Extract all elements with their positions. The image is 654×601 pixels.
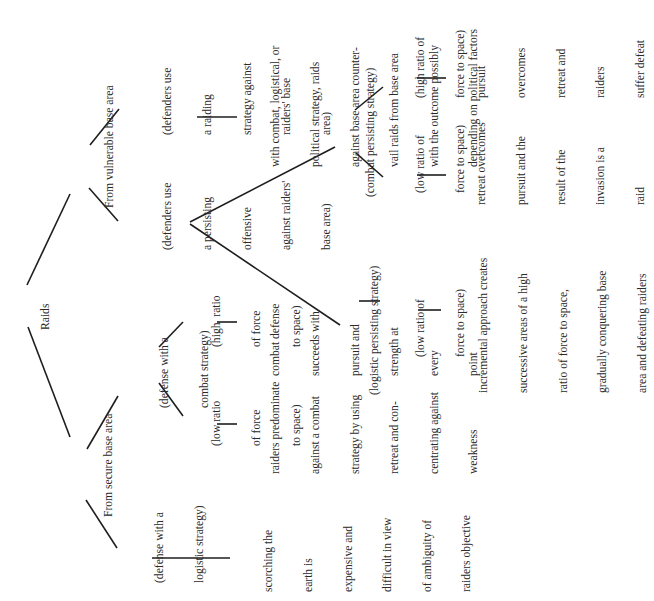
branch-label: From secure base area [102,414,115,517]
node-line: pursuit [475,40,488,98]
node-line: centrating against [428,382,441,474]
node-line: combat defense [269,304,282,376]
node-line: against raiders' [280,181,293,250]
node-line: with combat, logistical, or [269,29,282,167]
node-logistic-strategy: (defense with a logistic strategy) [127,505,233,583]
node-line: successive areas of a high [517,258,530,393]
node-line: suffer defeat [634,40,647,98]
node-line: offensive [241,181,254,250]
node-line: overcomes [515,40,528,98]
node-line: raiders objective [460,515,473,592]
edge-raids-secure [28,327,70,437]
node-cp-high-outcome: pursuit overcomes retreat and raiders su… [449,40,654,98]
node-line: against a combat [309,382,322,474]
node-line: expensive and [342,515,355,592]
node-cs-high-outcome: combat defense succeeds with pursuit and… [243,304,507,376]
root-node-raids: Raids [13,304,79,330]
edge-raids-vulnerable [27,194,70,285]
node-line: political strategy, raids [309,29,322,167]
node-line: gradually conquering base [596,258,609,393]
node-line: (defenders use [161,63,174,135]
node-line: pursuit and the [515,122,528,205]
node-line: of ambiguity of [421,515,434,592]
node-line: raiders predominate [269,382,282,474]
node-line: (high ratio [210,295,223,347]
node-line: earth is [302,515,315,592]
node-line: retreat overcomes [475,122,488,205]
node-line: result of the [555,122,568,205]
node-cp-low-outcome: retreat overcomes pursuit and the result… [449,122,654,205]
node-line: difficult in view [381,515,394,592]
node-line: retreat and con- [388,382,401,474]
node-ls-outcome: scorching the earth is expensive and dif… [236,515,500,592]
branch-label: From vulnerable base area [103,85,116,208]
node-line: (high ratio of [414,30,427,98]
node-line: succeeds with [309,304,322,376]
node-line: every [428,304,441,376]
node-line: strategy by using [349,382,362,474]
node-line: logistic strategy) [193,505,206,583]
node-line: invasion is a [594,122,607,205]
node-line: a persisting [201,181,214,250]
node-line: (defense with a [158,330,171,408]
node-line: (low ratio [210,401,223,446]
node-line: (low ratio of [414,125,427,193]
node-line: (defenders use [161,181,174,250]
node-line: point [467,304,480,376]
node-persisting-offensive: (defenders use a persisting offensive ag… [135,181,359,250]
node-line: raid [634,122,647,205]
node-line: (combat persisting strategy) [364,68,377,197]
node-line: weakness [467,382,480,474]
node-line: ratio of force to space, [557,258,570,393]
branch-secure-base: From secure base area [76,414,142,517]
node-line: pursuit and [349,304,362,376]
node-line: (defense with a [153,505,166,583]
root-label: Raids [39,304,52,330]
node-line: area and defeating raiders [636,258,649,393]
node-line: scorching the [262,515,275,592]
node-line: retreat and [555,40,568,98]
node-cs-low-outcome: raiders predominate against a combat str… [243,382,507,474]
node-line: a raiding [201,63,214,135]
branch-vulnerable-base: From vulnerable base area [77,85,143,208]
node-line: raiders [594,40,607,98]
node-line: base area) [320,181,333,250]
node-line: strength at [388,304,401,376]
